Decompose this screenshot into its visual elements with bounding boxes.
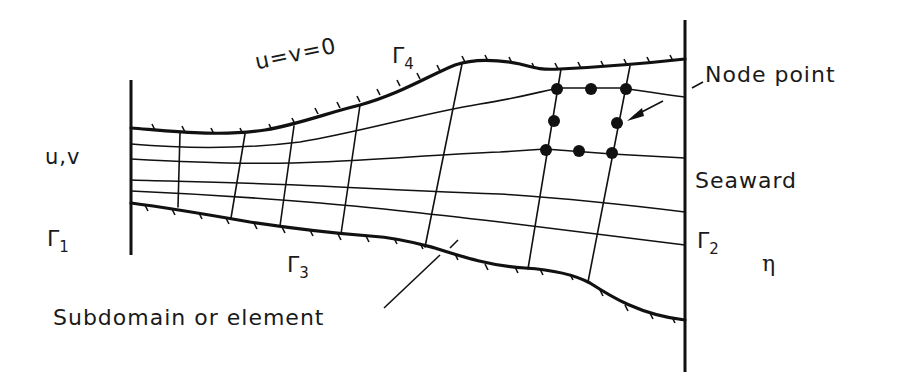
node-point bbox=[585, 83, 597, 95]
transverse-mesh-lines bbox=[178, 64, 630, 282]
node-point bbox=[548, 115, 560, 127]
gamma3-subscript: 3 bbox=[299, 264, 309, 282]
subdomain-leader bbox=[384, 255, 440, 308]
left-boundary-vars-label: u,v bbox=[45, 147, 80, 168]
subdomain-label: Subdomain or element bbox=[53, 307, 324, 329]
element-node-points bbox=[540, 83, 632, 159]
seaward-label: Seaward bbox=[695, 170, 797, 192]
gamma3-symbol: Γ bbox=[287, 252, 299, 277]
node-pointer-arrow bbox=[627, 101, 663, 121]
node-point bbox=[606, 147, 618, 159]
longitudinal-mesh-lines bbox=[131, 88, 685, 245]
gamma2-subscript: 2 bbox=[709, 240, 719, 258]
gamma2-symbol: Γ bbox=[697, 228, 709, 253]
gamma4-symbol: Γ bbox=[392, 43, 404, 68]
node-point bbox=[573, 145, 585, 157]
node-point-label: Node point bbox=[705, 64, 836, 86]
node-point bbox=[620, 83, 632, 95]
eta-label: η bbox=[762, 253, 775, 275]
gamma3-label: Γ3 bbox=[287, 254, 309, 281]
gamma4-subscript: 4 bbox=[404, 55, 414, 73]
gamma1-label: Γ1 bbox=[47, 228, 69, 255]
subdomain-mark bbox=[450, 240, 458, 248]
gamma4-label: Γ4 bbox=[392, 45, 414, 72]
bottom-boundary-gamma3 bbox=[131, 203, 685, 320]
node-point bbox=[611, 117, 623, 129]
node-point bbox=[540, 144, 552, 156]
gamma2-label: Γ2 bbox=[697, 230, 719, 257]
node-point-leader bbox=[692, 82, 703, 88]
gamma1-subscript: 1 bbox=[59, 238, 69, 256]
gamma1-symbol: Γ bbox=[47, 226, 59, 251]
node-point bbox=[551, 83, 563, 95]
